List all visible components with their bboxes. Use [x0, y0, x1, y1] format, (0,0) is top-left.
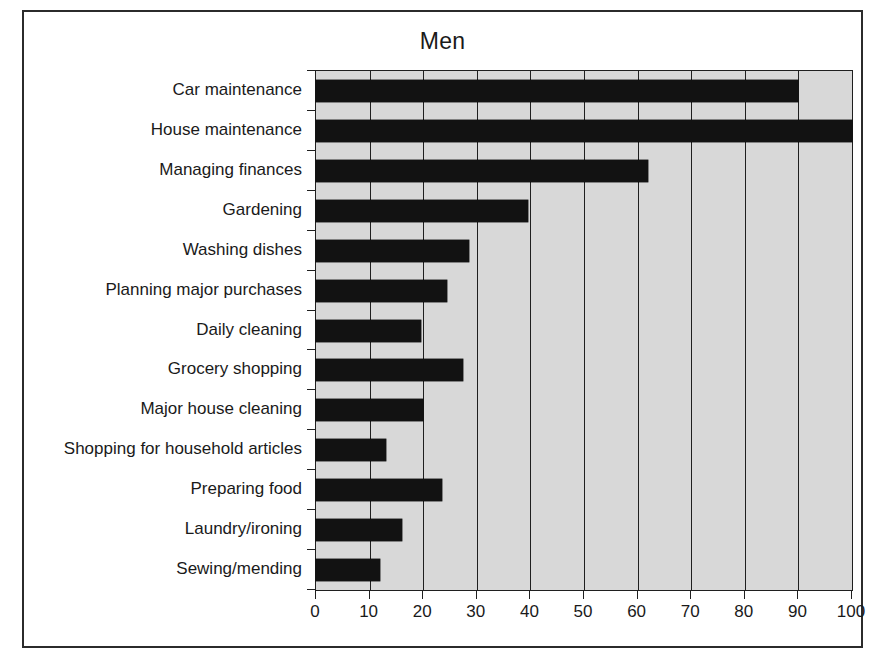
category-label: Planning major purchases: [105, 270, 302, 310]
bar-row: [316, 350, 852, 390]
x-axis-tick-label: 40: [520, 602, 539, 622]
x-axis-tick: [369, 590, 370, 599]
bar-row: [316, 311, 852, 351]
y-axis-tick: [307, 310, 315, 311]
category-label: Shopping for household articles: [64, 429, 302, 469]
y-axis-tick: [307, 429, 315, 430]
x-axis-tick-label: 100: [837, 602, 865, 622]
bar: [316, 280, 447, 302]
y-axis-tick: [307, 70, 315, 71]
category-label: Major house cleaning: [140, 389, 302, 429]
y-axis-tick: [307, 389, 315, 390]
y-axis-tick: [307, 230, 315, 231]
x-axis-tick: [744, 590, 745, 599]
bar: [316, 519, 402, 541]
y-axis-tick: [307, 549, 315, 550]
y-axis-tick: [307, 110, 315, 111]
x-axis-tick: [583, 590, 584, 599]
bar: [316, 120, 852, 142]
bar: [316, 160, 648, 182]
x-axis-tick-label: 60: [627, 602, 646, 622]
bar: [316, 80, 798, 102]
category-label: Washing dishes: [183, 230, 302, 270]
x-axis-tick-label: 20: [413, 602, 432, 622]
bar-row: [316, 191, 852, 231]
category-label: Sewing/mending: [176, 549, 302, 589]
bar-row: [316, 271, 852, 311]
bar-row: [316, 550, 852, 590]
y-axis-tick: [307, 270, 315, 271]
x-axis-tick: [315, 590, 316, 599]
x-axis-tick-label: 80: [734, 602, 753, 622]
category-axis-labels: Car maintenanceHouse maintenanceManaging…: [24, 70, 310, 589]
bar-row: [316, 71, 852, 111]
x-axis-tick-label: 10: [359, 602, 378, 622]
bar: [316, 359, 463, 381]
x-axis-tick-label: 70: [681, 602, 700, 622]
x-axis-tick-label: 0: [310, 602, 319, 622]
x-axis-tick: [422, 590, 423, 599]
bar: [316, 559, 380, 581]
y-axis-tick: [307, 190, 315, 191]
chart-figure: Men Car maintenanceHouse maintenanceMana…: [22, 10, 863, 648]
bar-row: [316, 470, 852, 510]
bar: [316, 240, 469, 262]
bar: [316, 200, 528, 222]
bar-row: [316, 390, 852, 430]
y-axis-tick: [307, 349, 315, 350]
x-axis-tick-label: 90: [788, 602, 807, 622]
x-axis-tick: [797, 590, 798, 599]
bar: [316, 439, 386, 461]
x-axis-tick: [476, 590, 477, 599]
y-axis-tick: [307, 509, 315, 510]
category-label: Car maintenance: [173, 70, 302, 110]
bar-row: [316, 231, 852, 271]
bar: [316, 320, 421, 342]
category-label: Daily cleaning: [196, 310, 302, 350]
x-axis-tick-label: 30: [466, 602, 485, 622]
x-axis-tick: [529, 590, 530, 599]
category-label: House maintenance: [151, 110, 302, 150]
x-axis-tick: [637, 590, 638, 599]
x-axis-tick-label: 50: [574, 602, 593, 622]
y-axis-tick: [307, 150, 315, 151]
chart-title: Men: [24, 28, 861, 55]
x-axis-tick: [851, 590, 852, 599]
bar: [316, 479, 442, 501]
category-label: Grocery shopping: [168, 349, 302, 389]
y-axis-tick: [307, 469, 315, 470]
category-label: Laundry/ironing: [185, 509, 302, 549]
bar-row: [316, 111, 852, 151]
plot-area: [315, 70, 853, 591]
y-axis-tick: [307, 589, 315, 590]
bar: [316, 399, 423, 421]
x-axis-tick: [690, 590, 691, 599]
bar-row: [316, 510, 852, 550]
category-label: Managing finances: [159, 150, 302, 190]
category-label: Gardening: [223, 190, 302, 230]
bar-row: [316, 430, 852, 470]
category-label: Preparing food: [190, 469, 302, 509]
bar-row: [316, 151, 852, 191]
